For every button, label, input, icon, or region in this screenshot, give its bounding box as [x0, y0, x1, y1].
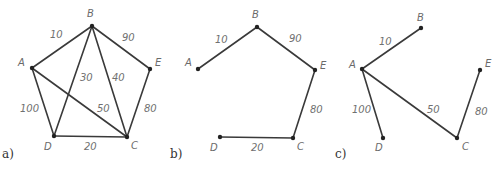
- panel-label-b: b): [170, 147, 182, 161]
- edge-weight-label: 50: [427, 104, 440, 115]
- edge-AC: [362, 69, 457, 138]
- vertex-label: C: [131, 140, 138, 151]
- vertex-A: [30, 66, 34, 70]
- edge-weight-label: 20: [84, 141, 97, 152]
- edge-weight-label: 20: [251, 142, 264, 153]
- panel-c: 101005080ABEDC: [348, 12, 492, 153]
- vertex-B: [255, 25, 259, 29]
- edge-AD: [32, 68, 54, 136]
- vertex-B: [90, 24, 94, 28]
- edge-DC: [220, 137, 293, 138]
- vertex-label: E: [320, 60, 327, 71]
- panel-label-c: c): [335, 147, 346, 161]
- edge-AB: [362, 28, 421, 69]
- edge-BE: [257, 27, 315, 70]
- vertex-D: [381, 136, 385, 140]
- edge-weight-label: 80: [475, 106, 488, 117]
- vertex-C: [125, 135, 129, 139]
- edge-BE: [92, 26, 150, 69]
- edge-weight-label: 100: [352, 104, 371, 115]
- vertex-label: A: [17, 57, 25, 68]
- graph-diagram: 10903040501008020ABEDC10908020ABEDC10100…: [0, 0, 503, 177]
- edge-weight-label: 40: [112, 72, 125, 83]
- vertex-label: A: [348, 59, 356, 70]
- edge-weight-label: 30: [80, 72, 93, 83]
- edge-weight-label: 80: [310, 104, 323, 115]
- vertex-B: [419, 26, 423, 30]
- vertex-E: [478, 68, 482, 72]
- edge-weight-label: 80: [144, 103, 157, 114]
- vertex-label: A: [184, 57, 192, 68]
- vertex-E: [148, 67, 152, 71]
- vertex-label: B: [417, 12, 424, 23]
- vertex-E: [313, 68, 317, 72]
- vertex-C: [455, 136, 459, 140]
- edge-EC: [457, 70, 480, 138]
- panel-a: 10903040501008020ABEDC: [17, 8, 162, 152]
- edge-weight-label: 90: [122, 32, 135, 43]
- vertex-label: D: [44, 141, 52, 152]
- panel-label-a: a): [2, 147, 14, 161]
- vertex-C: [291, 136, 295, 140]
- vertex-A: [360, 67, 364, 71]
- caption-cutoff: [4, 172, 304, 177]
- vertex-label: C: [462, 141, 469, 152]
- edge-weight-label: 10: [215, 34, 228, 45]
- vertex-label: C: [297, 141, 304, 152]
- panel-b: 10908020ABEDC: [184, 9, 327, 153]
- vertex-label: B: [87, 8, 94, 19]
- vertex-label: E: [155, 57, 162, 68]
- graph-figure: 10903040501008020ABEDC10908020ABEDC10100…: [0, 0, 503, 177]
- vertex-label: D: [375, 142, 383, 153]
- vertex-label: E: [485, 58, 492, 69]
- vertex-D: [218, 135, 222, 139]
- edge-weight-label: 90: [289, 33, 302, 44]
- vertex-label: B: [252, 9, 259, 20]
- edge-DC: [54, 136, 127, 137]
- edge-weight-label: 50: [97, 103, 110, 114]
- edge-weight-label: 100: [20, 103, 39, 114]
- vertex-D: [52, 134, 56, 138]
- edge-weight-label: 10: [50, 29, 63, 40]
- vertex-label: D: [210, 142, 218, 153]
- vertex-A: [196, 67, 200, 71]
- edge-weight-label: 10: [379, 36, 392, 47]
